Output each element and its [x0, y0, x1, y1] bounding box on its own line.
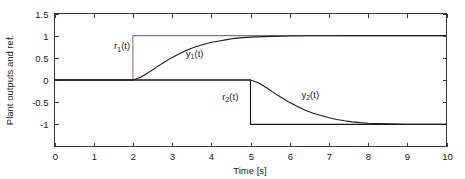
x-tick-label: 8 [366, 151, 371, 162]
x-tick-label: 1 [92, 151, 97, 162]
annotation-y1: y1(t) [186, 48, 204, 61]
chart-figure: 012345678910 1.510.50-0.5-1 r1(t)y1(t)r2… [0, 0, 465, 179]
x-tick-label: 4 [209, 151, 214, 162]
curve-annotations: r1(t)y1(t)r2(t)y2(t) [114, 40, 319, 103]
x-tick-label: 9 [405, 151, 410, 162]
x-tick-label: 0 [53, 151, 58, 162]
x-tick-label: 3 [170, 151, 175, 162]
x-axis-tick-labels: 012345678910 [53, 151, 453, 162]
x-tick-label: 2 [131, 151, 136, 162]
x-tick-label: 7 [327, 151, 332, 162]
y-tick-label: -1 [40, 119, 48, 130]
series-line-reference-step-down [55, 80, 447, 124]
y-axis-tick-labels: 1.510.50-0.5-1 [32, 9, 48, 130]
annotation-r1: r1(t) [114, 40, 130, 53]
x-tick-label: 6 [288, 151, 293, 162]
plot-canvas: 012345678910 1.510.50-0.5-1 r1(t)y1(t)r2… [0, 0, 465, 179]
y-tick-label: 1.5 [35, 9, 48, 20]
x-tick-label: 10 [442, 151, 453, 162]
y-tick-label: 0 [43, 75, 48, 86]
y-tick-label: -0.5 [32, 97, 48, 108]
x-axis-title: Time [s] [233, 165, 266, 176]
annotation-r2: r2(t) [222, 91, 238, 104]
x-tick-label: 5 [249, 151, 254, 162]
annotation-y2: y2(t) [301, 89, 319, 102]
y-tick-label: 0.5 [35, 53, 48, 64]
y-axis-title: Plant outputs and ref. [4, 35, 15, 125]
y-tick-label: 1 [43, 31, 48, 42]
